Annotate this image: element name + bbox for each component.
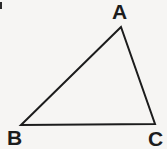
geometry-figure: A B C xyxy=(0,0,167,149)
triangle-drawing xyxy=(0,0,167,149)
triangle-abc-outline xyxy=(21,27,155,125)
vertex-label-c: C xyxy=(148,128,163,149)
vertex-label-b: B xyxy=(7,127,22,148)
vertex-label-a: A xyxy=(112,1,127,22)
scan-artifact-mark xyxy=(0,2,2,9)
